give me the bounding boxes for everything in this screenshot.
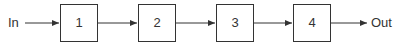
block-diagram: In 1 2 3 4 Out (0, 0, 398, 44)
block-4-label: 4 (308, 15, 315, 30)
input-label: In (8, 15, 19, 30)
block-2-label: 2 (153, 15, 160, 30)
block-1: 1 (61, 5, 98, 42)
block-4: 4 (294, 5, 331, 42)
block-3: 3 (217, 5, 254, 42)
block-3-label: 3 (231, 15, 238, 30)
block-1-label: 1 (75, 15, 82, 30)
block-2: 2 (139, 5, 176, 42)
output-label: Out (371, 15, 392, 30)
